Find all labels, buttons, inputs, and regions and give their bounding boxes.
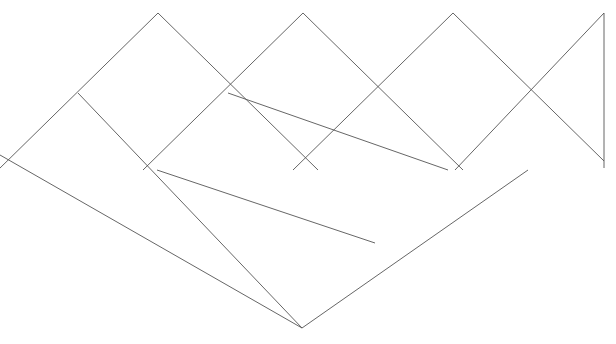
canvas-background: [0, 0, 616, 344]
drawing-canvas: [0, 0, 616, 344]
lattice-figure: [0, 0, 616, 344]
